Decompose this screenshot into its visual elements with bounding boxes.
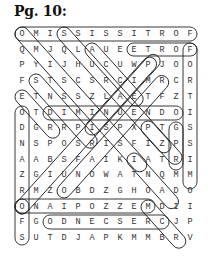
- grid-letter[interactable]: F: [15, 74, 29, 88]
- grid-letter[interactable]: C: [99, 215, 113, 229]
- grid-letter[interactable]: R: [99, 74, 113, 88]
- grid-letter[interactable]: R: [169, 153, 183, 167]
- grid-letter[interactable]: R: [15, 184, 29, 198]
- grid-letter[interactable]: D: [155, 106, 169, 120]
- grid-letter[interactable]: J: [57, 58, 71, 72]
- grid-letter[interactable]: S: [71, 90, 85, 104]
- grid-letter[interactable]: S: [183, 121, 197, 135]
- grid-letter[interactable]: O: [15, 200, 29, 214]
- grid-letter[interactable]: C: [99, 58, 113, 72]
- grid-letter[interactable]: O: [57, 137, 71, 151]
- grid-letter[interactable]: N: [141, 106, 155, 120]
- grid-letter[interactable]: R: [43, 121, 57, 135]
- grid-letter[interactable]: T: [43, 231, 57, 245]
- grid-letter[interactable]: Z: [169, 90, 183, 104]
- grid-letter[interactable]: T: [155, 153, 169, 167]
- grid-letter[interactable]: R: [155, 43, 169, 57]
- grid-letter[interactable]: L: [99, 90, 113, 104]
- grid-letter[interactable]: A: [113, 90, 127, 104]
- grid-letter[interactable]: W: [127, 58, 141, 72]
- grid-letter[interactable]: S: [15, 231, 29, 245]
- grid-letter[interactable]: S: [57, 27, 71, 41]
- grid-letter[interactable]: O: [57, 184, 71, 198]
- grid-letter[interactable]: L: [71, 43, 85, 57]
- grid-letter[interactable]: Z: [85, 90, 99, 104]
- grid-letter[interactable]: F: [183, 27, 197, 41]
- grid-letter[interactable]: P: [15, 58, 29, 72]
- grid-letter[interactable]: D: [43, 106, 57, 120]
- grid-letter[interactable]: A: [85, 231, 99, 245]
- grid-letter[interactable]: A: [85, 43, 99, 57]
- grid-letter[interactable]: P: [113, 121, 127, 135]
- grid-letter[interactable]: A: [141, 153, 155, 167]
- grid-letter[interactable]: D: [57, 231, 71, 245]
- grid-letter[interactable]: M: [127, 231, 141, 245]
- grid-letter[interactable]: E: [15, 90, 29, 104]
- grid-letter[interactable]: K: [113, 231, 127, 245]
- grid-letter[interactable]: J: [155, 58, 169, 72]
- grid-letter[interactable]: P: [43, 137, 57, 151]
- grid-letter[interactable]: Q: [15, 43, 29, 57]
- grid-letter[interactable]: C: [155, 215, 169, 229]
- grid-letter[interactable]: I: [141, 137, 155, 151]
- grid-letter[interactable]: T: [141, 90, 155, 104]
- grid-letter[interactable]: R: [183, 74, 197, 88]
- grid-letter[interactable]: Q: [57, 43, 71, 57]
- grid-letter[interactable]: R: [85, 137, 99, 151]
- grid-letter[interactable]: X: [127, 121, 141, 135]
- grid-letter[interactable]: F: [71, 153, 85, 167]
- grid-letter[interactable]: E: [113, 43, 127, 57]
- grid-letter[interactable]: I: [127, 153, 141, 167]
- grid-letter[interactable]: O: [43, 215, 57, 229]
- grid-letter[interactable]: I: [127, 74, 141, 88]
- grid-letter[interactable]: Z: [99, 184, 113, 198]
- grid-letter[interactable]: R: [141, 215, 155, 229]
- grid-letter[interactable]: B: [43, 153, 57, 167]
- grid-letter[interactable]: I: [85, 27, 99, 41]
- grid-letter[interactable]: Q: [155, 168, 169, 182]
- grid-letter[interactable]: T: [141, 27, 155, 41]
- grid-letter[interactable]: D: [15, 121, 29, 135]
- grid-letter[interactable]: P: [141, 58, 155, 72]
- grid-letter[interactable]: R: [169, 231, 183, 245]
- grid-letter[interactable]: S: [183, 137, 197, 151]
- grid-letter[interactable]: I: [183, 153, 197, 167]
- grid-letter[interactable]: O: [169, 106, 183, 120]
- grid-letter[interactable]: T: [43, 74, 57, 88]
- grid-letter[interactable]: E: [127, 200, 141, 214]
- grid-letter[interactable]: T: [29, 106, 43, 120]
- grid-letter[interactable]: N: [99, 106, 113, 120]
- grid-letter[interactable]: S: [57, 90, 71, 104]
- grid-letter[interactable]: M: [29, 27, 43, 41]
- grid-letter[interactable]: I: [169, 200, 183, 214]
- grid-letter[interactable]: M: [169, 168, 183, 182]
- grid-letter[interactable]: J: [71, 231, 85, 245]
- grid-letter[interactable]: D: [85, 184, 99, 198]
- grid-letter[interactable]: O: [183, 58, 197, 72]
- grid-letter[interactable]: O: [141, 184, 155, 198]
- grid-letter[interactable]: N: [29, 200, 43, 214]
- grid-letter[interactable]: I: [183, 106, 197, 120]
- grid-letter[interactable]: U: [99, 43, 113, 57]
- grid-letter[interactable]: W: [99, 168, 113, 182]
- grid-letter[interactable]: I: [43, 168, 57, 182]
- grid-letter[interactable]: O: [169, 27, 183, 41]
- grid-letter[interactable]: D: [155, 200, 169, 214]
- grid-letter[interactable]: I: [43, 27, 57, 41]
- grid-letter[interactable]: I: [183, 200, 197, 214]
- grid-letter[interactable]: A: [29, 153, 43, 167]
- grid-letter[interactable]: Z: [113, 200, 127, 214]
- grid-letter[interactable]: R: [155, 74, 169, 88]
- grid-letter[interactable]: N: [71, 215, 85, 229]
- grid-letter[interactable]: S: [113, 215, 127, 229]
- grid-letter[interactable]: S: [113, 27, 127, 41]
- grid-letter[interactable]: F: [15, 215, 29, 229]
- grid-letter[interactable]: J: [43, 43, 57, 57]
- grid-letter[interactable]: E: [127, 215, 141, 229]
- grid-letter[interactable]: O: [85, 200, 99, 214]
- grid-letter[interactable]: G: [113, 184, 127, 198]
- grid-letter[interactable]: A: [113, 168, 127, 182]
- grid-letter[interactable]: D: [57, 215, 71, 229]
- grid-letter[interactable]: I: [85, 106, 99, 120]
- grid-letter[interactable]: G: [29, 168, 43, 182]
